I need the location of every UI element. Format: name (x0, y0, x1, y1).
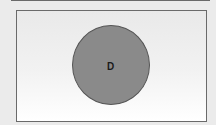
set-d-circle[interactable]: D (72, 25, 150, 105)
diagram-panel: D (16, 10, 207, 122)
set-d-label: D (107, 61, 114, 72)
top-panel (11, 0, 210, 1)
